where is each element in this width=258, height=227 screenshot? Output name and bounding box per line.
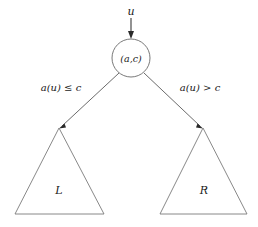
left-subtree-label: L <box>54 184 62 197</box>
diagram-canvas: u (a,c) a(u) ≤ c a(u) > c L R <box>0 0 258 227</box>
right-edge-label: a(u) > c <box>180 82 221 93</box>
incoming-arrow-head <box>128 31 134 39</box>
right-edge-arrowhead <box>196 124 203 129</box>
right-subtree-label: R <box>199 184 208 197</box>
left-edge-label: a(u) ≤ c <box>41 82 82 93</box>
tree-split-diagram: u (a,c) a(u) ≤ c a(u) > c L R <box>0 0 258 227</box>
incoming-node-label: u <box>127 5 134 18</box>
right-subtree-triangle[interactable] <box>160 128 247 214</box>
incoming-arrow <box>128 18 134 39</box>
root-node-label: (a,c) <box>120 53 142 64</box>
left-edge-arrowhead <box>59 124 66 129</box>
left-subtree-triangle[interactable] <box>15 128 104 214</box>
